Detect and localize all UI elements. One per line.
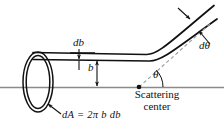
scattering-diagram: db b θ dθ dA = 2π b db Scattering center: [0, 0, 224, 129]
dtheta-label: dθ: [199, 40, 210, 51]
b-label: b: [88, 62, 94, 73]
area-equation-label: dA = 2π b db: [62, 110, 121, 121]
db-label: db: [73, 37, 84, 48]
scattering-center-line-2: center: [120, 101, 194, 113]
annulus-inner-ellipse: [26, 56, 50, 109]
upper-beam-curve: [33, 6, 214, 55]
scattering-center-label: Scattering center: [120, 89, 194, 113]
dtheta-arrow-upper: [178, 8, 190, 19]
annulus-outer-ellipse: [23, 52, 53, 112]
theta-label: θ: [153, 69, 158, 80]
da-leader-line: [48, 104, 61, 114]
